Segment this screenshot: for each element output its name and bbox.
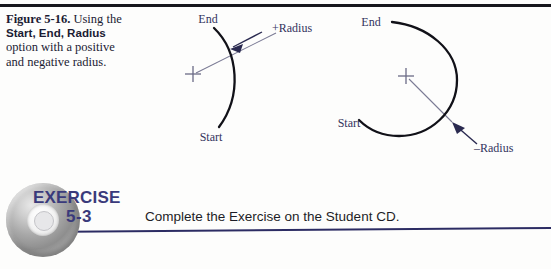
exercise-divider-rule bbox=[36, 227, 551, 233]
right-arc-path bbox=[359, 22, 457, 136]
right-end-label: End bbox=[361, 15, 380, 29]
left-arc-path bbox=[214, 28, 235, 127]
left-radius-line bbox=[196, 33, 276, 73]
left-arc-diagram: End Start +Radius bbox=[185, 12, 312, 144]
arc-diagrams: End Start +Radius bbox=[0, 0, 551, 180]
right-arc-diagram: End Start –Radius bbox=[338, 15, 514, 155]
right-radius-label: –Radius bbox=[473, 141, 514, 155]
exercise-instruction: Complete the Exercise on the Student CD. bbox=[145, 209, 399, 224]
exercise-callout: EXERCISE 5-3 Complete the Exercise on th… bbox=[0, 180, 551, 269]
left-radius-label: +Radius bbox=[272, 21, 312, 35]
left-end-label: End bbox=[198, 12, 217, 26]
right-start-label: Start bbox=[338, 116, 361, 130]
right-radius-line bbox=[409, 79, 452, 122]
cd-center-hole bbox=[34, 211, 54, 231]
left-start-label: Start bbox=[200, 130, 223, 144]
left-center-crosshair-icon bbox=[185, 66, 201, 82]
exercise-number: 5-3 bbox=[66, 207, 92, 227]
figure-page: Figure 5-16. Using the Start, End, Radiu… bbox=[0, 0, 551, 269]
exercise-heading: EXERCISE bbox=[33, 188, 121, 208]
